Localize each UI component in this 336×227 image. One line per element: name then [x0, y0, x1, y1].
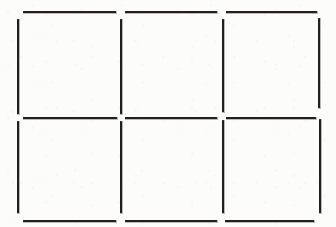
scanned-page [0, 0, 336, 227]
middle-rule-col3 [226, 117, 316, 119]
middle-rule-col2 [125, 117, 217, 119]
top-rule-col1 [23, 11, 116, 13]
divider2-rule-row2 [222, 120, 224, 213]
divider1-rule-row1 [120, 19, 122, 114]
divider1-rule-row2 [120, 121, 122, 213]
left-rule-row2 [17, 121, 19, 213]
right-rule-row2 [319, 119, 321, 213]
bottom-rule-col2 [125, 220, 217, 222]
grid-drawing [0, 0, 336, 227]
middle-rule-col1 [23, 117, 117, 119]
top-rule-col3 [226, 11, 317, 13]
top-rule-col2 [125, 11, 217, 13]
bottom-rule-col3 [225, 220, 314, 222]
divider2-rule-row1 [222, 19, 224, 112]
right-rule-row1 [318, 18, 320, 108]
bottom-rule-col1 [23, 220, 116, 222]
left-rule-row1 [17, 19, 19, 114]
